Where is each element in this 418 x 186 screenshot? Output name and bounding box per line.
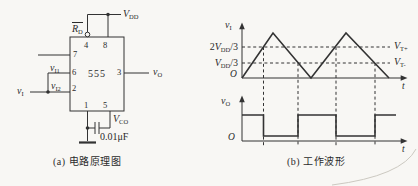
vdd-label: VDD xyxy=(123,8,139,21)
square-wave xyxy=(242,115,396,136)
vi-axis-label: vI xyxy=(225,19,232,32)
tick-2vdd3-label: 2VDD/3 xyxy=(196,41,238,54)
reset-rd-label: RD xyxy=(72,22,83,35)
vi-origin-label: O xyxy=(230,69,237,79)
vco-label: VCO xyxy=(113,113,128,126)
vt-minus-label: VT- xyxy=(394,56,406,69)
pin-8-number: 8 xyxy=(103,41,107,50)
vi-input-label: vI xyxy=(17,85,24,98)
arrow-up-icon xyxy=(239,23,245,30)
vo-t-label: t xyxy=(402,144,405,154)
pin-1-number: 1 xyxy=(84,101,88,110)
vi-t-label: t xyxy=(402,81,405,91)
vo-origin-label: O xyxy=(228,132,235,142)
vi1-label: vI1 xyxy=(50,62,60,75)
caption-b: (b) 工作波形 xyxy=(268,156,364,167)
vi2-label: vI2 xyxy=(51,80,61,93)
vo-axis-label: vO xyxy=(221,95,230,108)
figure-555-schmitt-trigger: VDD RD 4 8 7 6 2 3 1 5 555 vI1 vI2 vI vO… xyxy=(0,0,418,186)
tick-vdd3-label: VDD/3 xyxy=(196,57,238,70)
junction-dot xyxy=(106,13,110,17)
reset-bubble-icon xyxy=(85,32,90,37)
vo-output-label: vO xyxy=(153,66,162,79)
arrow-right-icon xyxy=(401,138,408,144)
caption-a: (a) 电路原理图 xyxy=(36,156,138,167)
arrow-right-icon xyxy=(401,75,408,81)
pin-7-number: 7 xyxy=(73,50,77,59)
arrow-up-icon xyxy=(239,96,245,103)
junction-dot xyxy=(46,90,50,94)
pin-2-number: 2 xyxy=(72,84,76,93)
pin-3-number: 3 xyxy=(117,68,121,77)
vt-plus-label: VT+ xyxy=(394,40,408,53)
pin-6-number: 6 xyxy=(72,68,76,77)
waveform-plots xyxy=(239,23,407,147)
ic-555-label: 555 xyxy=(87,68,107,79)
triangle-wave xyxy=(242,33,389,78)
pin-4-number: 4 xyxy=(84,41,88,50)
capacitor-value-label: 0.01μF xyxy=(100,131,128,142)
pin-5-number: 5 xyxy=(103,101,107,110)
